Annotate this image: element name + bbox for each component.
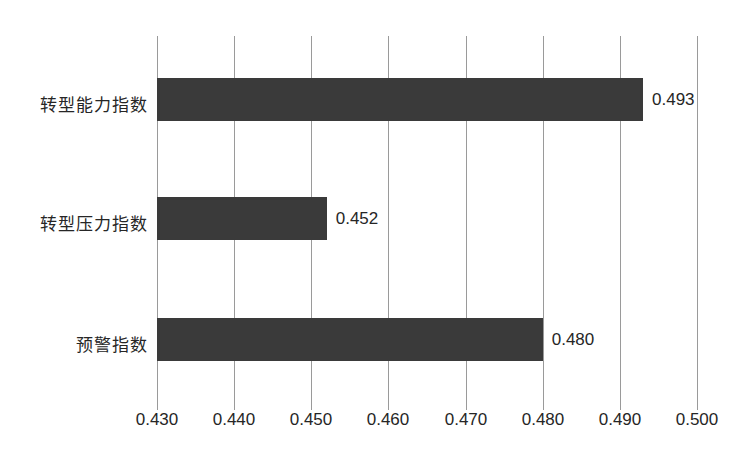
category-label-text: 转型压力指数: [40, 214, 148, 234]
xtick-label-2: 0.450: [271, 410, 351, 430]
bar-2[interactable]: [157, 318, 543, 361]
category-label-2: 预警指数: [0, 331, 148, 356]
plot-area: [157, 36, 697, 402]
bar-0[interactable]: [157, 78, 643, 121]
tick-mark-6: [620, 402, 621, 410]
chart-canvas: 转型能力指数 转型压力指数 预警指数 0.493 0.452 0.480 0.4…: [0, 0, 748, 474]
value-label-1: 0.452: [336, 209, 379, 229]
category-label-1: 转型压力指数: [0, 210, 148, 235]
tick-mark-3: [388, 402, 389, 410]
bar-1[interactable]: [157, 197, 327, 240]
xtick-label-6: 0.490: [580, 410, 660, 430]
xtick-label-3: 0.460: [348, 410, 428, 430]
xtick-label-4: 0.470: [426, 410, 506, 430]
tick-mark-4: [466, 402, 467, 410]
value-label-2: 0.480: [552, 330, 595, 350]
category-label-0: 转型能力指数: [0, 91, 148, 116]
tick-mark-5: [543, 402, 544, 410]
xtick-label-5: 0.480: [503, 410, 583, 430]
category-label-text: 预警指数: [76, 335, 148, 355]
tick-mark-0: [157, 402, 158, 410]
value-label-0: 0.493: [652, 90, 695, 110]
xtick-label-7: 0.500: [657, 410, 737, 430]
tick-mark-7: [697, 402, 698, 410]
xtick-label-0: 0.430: [117, 410, 197, 430]
gridline-7: [697, 36, 698, 402]
tick-mark-1: [234, 402, 235, 410]
xtick-label-1: 0.440: [194, 410, 274, 430]
tick-mark-2: [311, 402, 312, 410]
category-label-text: 转型能力指数: [40, 95, 148, 115]
